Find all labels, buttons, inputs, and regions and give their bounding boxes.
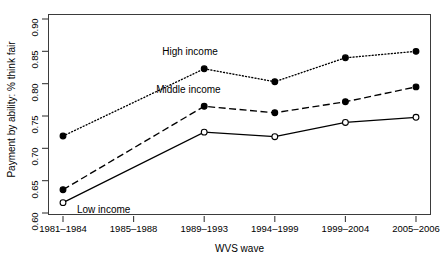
data-point-marker [60,187,66,193]
y-tick-label: 0.70 [29,148,40,176]
x-tick-label: 1985–1988 [110,223,158,234]
data-point-marker [60,133,66,139]
data-point-marker [343,99,349,105]
data-point-marker [413,114,419,120]
data-point-marker [272,79,278,85]
data-point-marker [343,55,349,61]
series-label-middle-income: Middle income [156,84,220,95]
data-point-marker [413,48,419,54]
series-line [63,87,416,190]
x-axis-title: WVS wave [48,243,431,254]
series-label-high-income: High income [162,46,218,57]
data-point-marker [343,120,349,126]
x-axis-ticks [63,216,416,222]
data-point-marker [201,66,207,72]
y-tick-label: 0.65 [29,180,40,208]
chart-figure: Payment by ability: % think fair 0.600.6… [0,0,446,267]
x-tick-label: 1994–1999 [251,223,299,234]
y-tick-label: 0.80 [29,83,40,111]
data-point-marker [60,200,66,206]
data-point-marker [272,134,278,140]
data-point-marker [413,84,419,90]
x-tick-label: 1999–2004 [322,223,370,234]
y-tick-label: 0.85 [29,51,40,79]
x-tick-label: 1981–1984 [39,223,87,234]
series-line [63,117,416,202]
y-tick-label: 0.75 [29,116,40,144]
x-tick-label: 1989–1993 [180,223,228,234]
data-point-marker [201,103,207,109]
y-tick-label: 0.60 [29,213,40,241]
y-axis-ticks [42,19,48,213]
series-markers [60,48,419,205]
series-label-low-income: Low income [77,204,130,215]
data-point-marker [201,129,207,135]
data-point-marker [272,110,278,116]
y-tick-label: 0.90 [29,19,40,47]
x-tick-label: 2005–2006 [392,223,440,234]
series-lines [63,51,416,202]
series-line [63,51,416,136]
